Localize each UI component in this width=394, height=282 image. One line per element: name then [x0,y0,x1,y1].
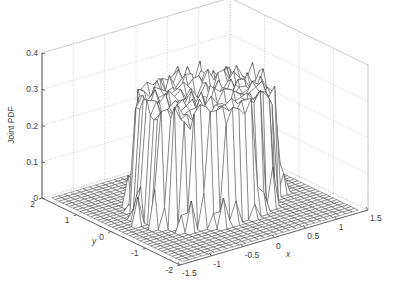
z-tick-label: 0.1 [26,157,38,167]
x-tick-label: 1 [339,222,344,232]
axis-line [74,215,77,216]
axis-line [108,232,111,233]
y-axis-label: y [91,236,97,246]
x-axis-label: x [285,249,291,259]
x-tick-label: -1 [213,259,221,269]
x-tick-label: -1.5 [182,268,197,278]
y-tick-label: -2 [165,265,173,275]
z-axis-label: Joint PDF [6,106,16,143]
y-tick-label: -1 [131,248,139,258]
y-tick-label: 2 [30,199,35,209]
axis-line [42,198,45,199]
joint-pdf-surface-plot: 00.10.20.30.4-2-1012-1.5-1-0.500.511.5 J… [0,0,394,282]
x-tick-label: 0 [276,241,281,251]
z-tick-label: 0.4 [26,48,38,58]
x-tick-label: 0.5 [307,231,319,241]
x-tick-label: -0.5 [245,250,260,260]
axis-line [143,248,146,249]
z-tick-label: 0.3 [26,84,38,94]
axis-line [39,198,42,199]
x-tick-label: 1.5 [370,213,382,223]
y-tick-label: 0 [99,232,104,242]
z-tick-label: 0.2 [26,121,38,131]
plot-canvas: 00.10.20.30.4-2-1012-1.5-1-0.500.511.5 J… [0,0,394,282]
axis-line [177,265,180,266]
y-tick-label: 1 [65,215,70,225]
